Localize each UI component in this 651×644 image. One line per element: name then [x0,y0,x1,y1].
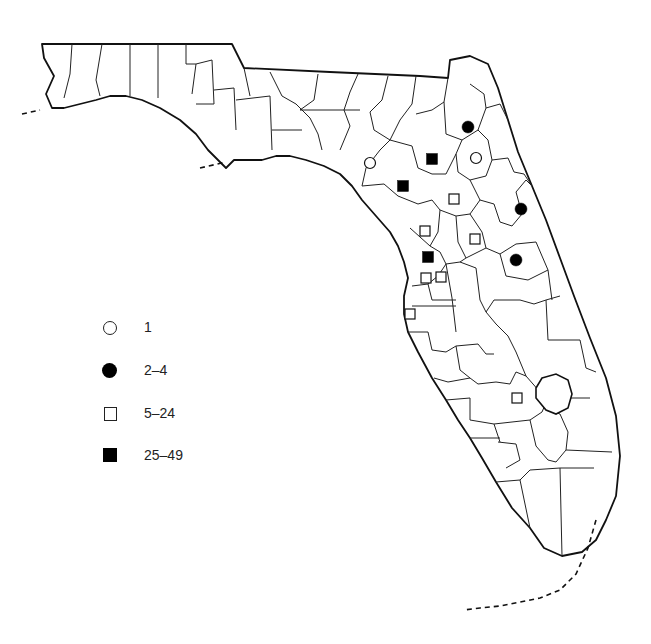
open-square-marker [449,194,459,204]
legend-item-open-circle: 1 [100,318,120,338]
open-circle-icon [100,318,120,338]
legend-label: 5–24 [144,405,175,421]
keys-coastline [22,110,596,610]
open-square-marker [470,234,480,244]
filled-square-marker [423,252,434,263]
county-lines [64,44,612,556]
legend-label: 2–4 [144,362,167,378]
filled-circle-marker [462,121,474,133]
state-outline [42,44,620,556]
open-circle-marker [471,153,482,164]
open-square-marker [420,226,430,236]
open-square-marker [512,393,522,403]
filled-circle-marker [510,254,522,266]
open-square-marker [436,272,446,282]
filled-circle-icon [100,361,120,381]
filled-square-marker [427,154,438,165]
open-square-icon [100,404,120,424]
lake-okeechobee [536,374,572,414]
filled-square-icon [100,446,120,466]
filled-circle-marker [515,203,527,215]
legend-label: 1 [144,319,152,335]
open-square-marker [421,273,431,283]
filled-square-marker [398,181,409,192]
legend-label: 25–49 [144,447,183,463]
florida-county-map [0,0,651,644]
open-square-marker [405,309,415,319]
open-circle-marker [365,158,376,169]
legend-item-filled-circle: 2–4 [100,361,120,381]
legend-item-filled-square: 25–49 [100,446,120,466]
legend-item-open-square: 5–24 [100,404,120,424]
